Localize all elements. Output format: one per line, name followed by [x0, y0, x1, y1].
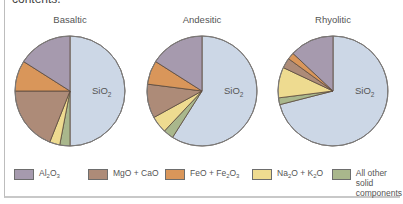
- legend-label: Na2O + K2O: [277, 168, 323, 181]
- legend: Al2O3MgO + CaOFeO + Fe2O3Na2O + K2OAll o…: [14, 168, 399, 192]
- legend-swatch: [88, 169, 108, 180]
- pie-title-rhyolitic: Rhyolitic: [315, 14, 351, 25]
- legend-swatch: [332, 169, 351, 180]
- pie-basaltic: SiO2: [15, 36, 125, 146]
- legend-item: MgO + CaO: [88, 168, 159, 180]
- legend-item: Al2O3: [14, 168, 60, 181]
- legend-swatch: [14, 169, 34, 180]
- legend-label: All other solid components: [356, 168, 403, 198]
- legend-label: FeO + Fe2O3: [190, 168, 239, 181]
- legend-swatch: [165, 169, 185, 180]
- pie-andesitic: SiO2: [147, 36, 257, 146]
- legend-item: Na2O + K2O: [252, 168, 323, 181]
- pie-title-basaltic: Basaltic: [53, 14, 86, 25]
- legend-swatch: [252, 169, 272, 180]
- legend-item: All other solid components: [332, 168, 403, 198]
- pie-title-andesitic: Andesitic: [183, 14, 222, 25]
- legend-label: MgO + CaO: [113, 168, 159, 178]
- legend-label: Al2O3: [39, 168, 60, 181]
- legend-item: FeO + Fe2O3: [165, 168, 239, 181]
- pie-rhyolitic: SiO2: [278, 36, 388, 146]
